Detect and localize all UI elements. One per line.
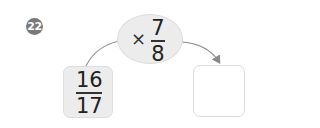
multiply-sign: × [131,29,146,49]
multiplier-numerator: 7 [151,17,164,39]
multiplier-fraction: 7 8 [151,17,165,65]
multiplier-denominator: 8 [151,43,164,65]
input-fraction: 16 17 [76,69,103,117]
arrow-to-answer [182,42,219,62]
input-denominator: 17 [76,95,103,117]
answer-box[interactable] [193,65,245,117]
connector-line [86,41,119,66]
operation-oval [117,14,183,64]
input-numerator: 16 [76,69,103,91]
